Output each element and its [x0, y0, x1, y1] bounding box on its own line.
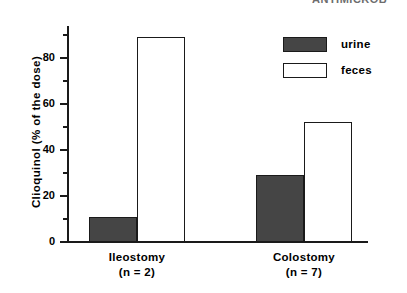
x-category-colostomy: Colostomy (n = 7) — [244, 250, 364, 280]
y-tick-minor-10 — [63, 218, 67, 220]
x-category-ileostomy-label: Ileostomy — [109, 251, 165, 263]
y-tick-minor-30 — [63, 172, 67, 174]
x-category-colostomy-label: Colostomy — [273, 251, 335, 263]
y-tick-minor-70 — [63, 80, 67, 82]
legend-swatch-feces-icon — [283, 63, 327, 78]
y-tick-minor-90 — [63, 34, 67, 36]
legend: urine feces — [283, 36, 403, 88]
y-tick-label-0: 0 — [33, 236, 55, 247]
y-axis-line — [67, 26, 69, 243]
bar-ileostomy-feces — [137, 37, 185, 242]
legend-label-feces: feces — [341, 64, 372, 76]
legend-swatch-urine-icon — [283, 37, 327, 52]
y-axis-title: Clioquinol (% of the dose) — [30, 32, 42, 232]
legend-item-urine: urine — [283, 36, 403, 58]
y-tick-minor-50 — [63, 126, 67, 128]
bar-colostomy-feces — [304, 122, 352, 242]
x-category-colostomy-n: (n = 7) — [244, 265, 364, 280]
x-category-ileostomy-n: (n = 2) — [77, 265, 197, 280]
bar-chart: 0 20 40 60 80 Clioquinol (% of the dose)… — [0, 0, 407, 293]
legend-label-urine: urine — [341, 38, 371, 50]
legend-item-feces: feces — [283, 62, 403, 84]
bar-colostomy-urine — [256, 175, 304, 242]
y-tick-major-20 — [60, 195, 67, 197]
y-tick-major-0 — [60, 241, 67, 243]
x-category-ileostomy: Ileostomy (n = 2) — [77, 250, 197, 280]
y-tick-major-80 — [60, 57, 67, 59]
bar-ileostomy-urine — [89, 217, 137, 242]
y-tick-major-40 — [60, 149, 67, 151]
y-tick-major-60 — [60, 103, 67, 105]
